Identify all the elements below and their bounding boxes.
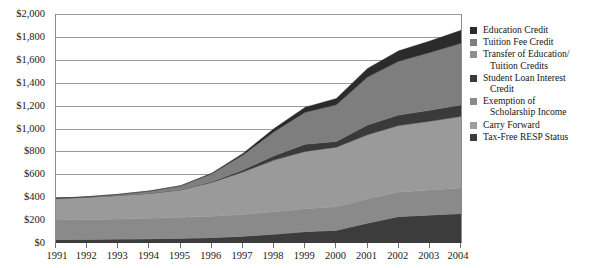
legend-swatch-icon xyxy=(470,39,477,46)
x-axis-tick-label: 2004 xyxy=(448,250,469,261)
x-axis-tick xyxy=(429,243,430,248)
legend-item[interactable]: Tax-Free RESP Status xyxy=(470,131,594,142)
legend-item[interactable]: Student Loan InterestCredit xyxy=(470,72,594,94)
x-axis-tick-label: 2001 xyxy=(356,250,377,261)
legend-item[interactable]: Education Credit xyxy=(470,24,594,35)
x-axis-tick xyxy=(304,243,305,248)
legend-item[interactable]: Carry Forward xyxy=(470,119,594,130)
legend-swatch-icon xyxy=(470,134,477,141)
x-axis-tick-label: 1992 xyxy=(76,250,97,261)
x-axis-tick xyxy=(86,243,87,248)
legend-item-label: Transfer of Education/Tuition Credits xyxy=(483,48,570,70)
legend-swatch-icon xyxy=(470,122,477,129)
legend-item-label-line2: Scholarship Income xyxy=(483,106,566,117)
y-axis-tick-label: $1,800 xyxy=(16,32,45,42)
x-axis-tick-label: 2000 xyxy=(325,250,346,261)
legend-item-label: Carry Forward xyxy=(483,119,540,130)
y-axis-tick-label: $0 xyxy=(35,238,46,248)
legend-item-label: Tax-Free RESP Status xyxy=(483,131,568,142)
x-axis-tick xyxy=(335,243,336,248)
x-axis-tick-label: 1995 xyxy=(169,250,190,261)
legend-swatch-icon xyxy=(470,75,477,82)
x-axis-tick-label: 1996 xyxy=(200,250,221,261)
x-axis-ticks xyxy=(55,243,460,249)
x-axis-tick xyxy=(460,243,461,248)
x-axis-tick-label: 1999 xyxy=(294,250,315,261)
y-axis-tick-label: $1,600 xyxy=(16,55,45,65)
x-axis-labels: 1991199219931994199519961997199819992000… xyxy=(0,250,470,266)
x-axis-tick-label: 1993 xyxy=(107,250,128,261)
y-axis-tick-label: $200 xyxy=(24,215,45,225)
y-axis-tick-label: $1,200 xyxy=(16,101,45,111)
legend-item-label: Education Credit xyxy=(483,24,548,35)
legend-swatch-icon xyxy=(470,98,477,105)
legend-item-label-line2: Credit xyxy=(483,83,566,94)
y-axis-tick-label: $2,000 xyxy=(16,9,45,19)
legend-item[interactable]: Exemption ofScholarship Income xyxy=(470,95,594,117)
legend-item-label: Student Loan InterestCredit xyxy=(483,72,566,94)
x-axis-tick xyxy=(117,243,118,248)
x-axis-tick xyxy=(273,243,274,248)
legend-item[interactable]: Transfer of Education/Tuition Credits xyxy=(470,48,594,70)
plot-inner xyxy=(56,14,461,243)
x-axis-tick-label: 1997 xyxy=(231,250,252,261)
legend-swatch-icon xyxy=(470,51,477,58)
x-axis-tick xyxy=(242,243,243,248)
x-axis-tick xyxy=(55,243,56,248)
y-axis-tick-label: $1,400 xyxy=(16,78,45,88)
x-axis-tick xyxy=(367,243,368,248)
legend-item-label-line2: Tuition Credits xyxy=(483,60,570,71)
legend-swatch-icon xyxy=(470,27,477,34)
y-axis-tick-label: $800 xyxy=(24,146,45,156)
y-axis-labels: $2,000$1,800$1,600$1,400$1,200$1,000$800… xyxy=(0,0,48,268)
x-axis-tick-label: 1998 xyxy=(263,250,284,261)
stacked-area-series xyxy=(56,14,461,243)
legend-item-label: Exemption ofScholarship Income xyxy=(483,95,566,117)
x-axis-tick xyxy=(180,243,181,248)
x-axis-tick-label: 1991 xyxy=(47,250,68,261)
x-axis-tick-label: 2003 xyxy=(418,250,439,261)
y-axis-tick-label: $400 xyxy=(24,192,45,202)
x-axis-tick xyxy=(148,243,149,248)
y-axis-tick-label: $1,000 xyxy=(16,124,45,134)
x-axis-tick xyxy=(398,243,399,248)
x-axis-tick-label: 1994 xyxy=(138,250,159,261)
x-axis-tick xyxy=(211,243,212,248)
legend-item-label: Tuition Fee Credit xyxy=(483,36,554,47)
chart-legend: Education CreditTuition Fee CreditTransf… xyxy=(470,24,594,143)
y-axis-tick-label: $600 xyxy=(24,169,45,179)
chart-plot-area xyxy=(55,14,462,243)
x-axis-tick-label: 2002 xyxy=(387,250,408,261)
legend-item[interactable]: Tuition Fee Credit xyxy=(470,36,594,47)
